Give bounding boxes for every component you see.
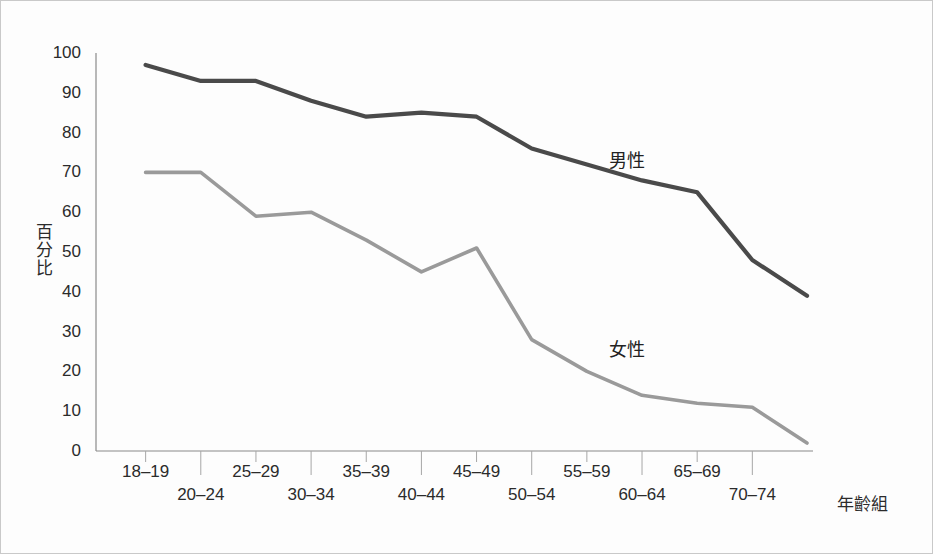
y-tick-label: 0 — [39, 442, 81, 459]
x-tick-label: 30–34 — [275, 486, 347, 503]
x-tick-label: 40–44 — [385, 486, 457, 503]
x-tick-label: 65–69 — [661, 463, 733, 480]
series-line-female — [146, 172, 807, 443]
y-tick-label: 20 — [39, 362, 81, 379]
series-paths — [146, 65, 807, 443]
y-tick-label: 60 — [39, 203, 81, 220]
x-tick-label: 50–54 — [496, 486, 568, 503]
x-tick-label: 25–29 — [220, 463, 292, 480]
axis-lines — [96, 53, 813, 451]
chart-figure: 百分比 年齡組 男性 女性 1009080706050403020100 18–… — [0, 0, 933, 554]
x-tick-label: 70–74 — [716, 486, 788, 503]
y-tick-label: 50 — [39, 243, 81, 260]
x-tick-label: 18–19 — [110, 463, 182, 480]
y-tick-label: 90 — [39, 84, 81, 101]
y-tick-label: 30 — [39, 323, 81, 340]
x-tick-label: 60–64 — [606, 486, 678, 503]
y-tick-label: 80 — [39, 124, 81, 141]
y-tick-label: 100 — [39, 44, 81, 61]
x-tick-label: 45–49 — [441, 463, 513, 480]
y-tick-label: 70 — [39, 163, 81, 180]
x-tick-label: 55–59 — [551, 463, 623, 480]
y-tick-label: 10 — [39, 402, 81, 419]
y-tick-label: 40 — [39, 283, 81, 300]
x-tick-label: 20–24 — [165, 486, 237, 503]
x-tick-label: 35–39 — [330, 463, 402, 480]
series-line-male — [146, 65, 807, 296]
